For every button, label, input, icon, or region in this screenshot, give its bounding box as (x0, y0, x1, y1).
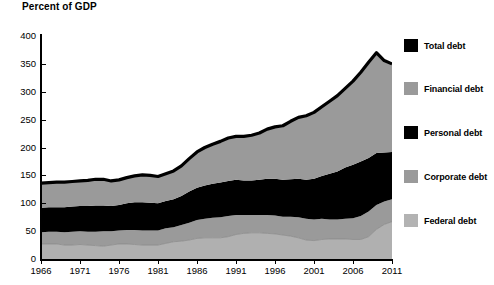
legend-item-personal-debt[interactable]: Personal debt (404, 126, 482, 139)
y-tick-mark (41, 203, 46, 204)
legend-item-federal-debt[interactable]: Federal debt (404, 214, 476, 227)
legend-label: Personal debt (424, 128, 482, 138)
legend-item-total-debt[interactable]: Total debt (404, 39, 465, 52)
y-tick-label: 400 (0, 30, 36, 41)
x-axis-line (40, 259, 393, 261)
x-tick-mark (314, 259, 315, 264)
legend-label: Corporate debt (424, 172, 487, 182)
x-tick-label: 2011 (382, 265, 402, 276)
y-tick-label: 50 (0, 225, 36, 236)
x-tick-label: 1996 (264, 265, 285, 276)
x-tick-mark (353, 259, 354, 264)
y-tick-label: 150 (0, 169, 36, 180)
legend-label: Total debt (424, 41, 465, 51)
chart-root: Percent of GDP 400350300250200150100500 … (0, 0, 494, 285)
y-tick-label: 300 (0, 86, 36, 97)
legend-swatch-icon (404, 214, 418, 227)
x-tick-label: 1966 (30, 265, 51, 276)
x-tick-label: 1971 (69, 265, 90, 276)
y-tick-mark (41, 120, 46, 121)
x-tick-label: 2006 (342, 265, 363, 276)
legend-swatch-icon (404, 39, 418, 52)
chart-title: Percent of GDP (22, 1, 97, 12)
y-tick-label: 250 (0, 114, 36, 125)
x-tick-mark (80, 259, 81, 264)
x-tick-label: 2001 (303, 265, 324, 276)
x-tick-label: 1976 (108, 265, 129, 276)
plot-area (41, 36, 392, 259)
x-tick-label: 1986 (186, 265, 207, 276)
legend-item-financial-debt[interactable]: Financial debt (404, 82, 483, 95)
x-tick-mark (41, 259, 42, 264)
legend-swatch-icon (404, 82, 418, 95)
x-tick-mark (119, 259, 120, 264)
y-tick-mark (41, 92, 46, 93)
y-tick-mark (41, 175, 46, 176)
x-tick-mark (275, 259, 276, 264)
legend-swatch-icon (404, 126, 418, 139)
x-tick-label: 1981 (147, 265, 168, 276)
x-tick-mark (197, 259, 198, 264)
y-tick-label: 350 (0, 58, 36, 69)
legend-label: Federal debt (424, 216, 476, 226)
x-tick-label: 1991 (225, 265, 246, 276)
y-tick-label: 0 (0, 253, 36, 264)
x-tick-mark (392, 259, 393, 264)
y-tick-mark (41, 148, 46, 149)
y-tick-mark (41, 64, 46, 65)
x-tick-mark (158, 259, 159, 264)
stacked-area-svg (41, 36, 392, 259)
y-tick-label: 100 (0, 197, 36, 208)
x-tick-mark (236, 259, 237, 264)
y-tick-mark (41, 231, 46, 232)
legend-label: Financial debt (424, 84, 483, 94)
legend-item-corporate-debt[interactable]: Corporate debt (404, 170, 487, 183)
y-tick-label: 200 (0, 142, 36, 153)
legend-swatch-icon (404, 170, 418, 183)
